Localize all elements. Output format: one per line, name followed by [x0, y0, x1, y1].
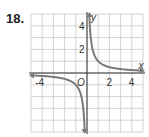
- x-tick-label: 4: [129, 77, 135, 88]
- y-axis-label: y: [90, 12, 97, 23]
- x-tick-label: 2: [106, 77, 112, 88]
- graph: -42424Oxy: [0, 0, 149, 137]
- y-tick-label: 4: [79, 21, 85, 32]
- x-tick-label: -4: [35, 77, 44, 88]
- origin-label: O: [77, 77, 85, 88]
- x-axis-label: x: [138, 60, 145, 71]
- curve-branch-right: [89, 14, 143, 71]
- y-tick-label: 2: [79, 44, 85, 55]
